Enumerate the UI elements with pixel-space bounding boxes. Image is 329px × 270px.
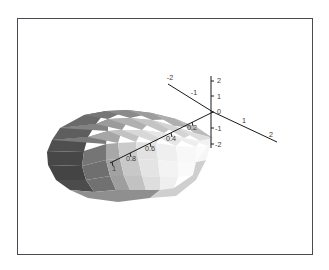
tick-label-right-1: 1	[242, 116, 246, 125]
tick-label-depth-minus1: -1	[191, 88, 197, 97]
surface-facet	[106, 143, 120, 160]
tick-label-vertical-minus2: -2	[215, 140, 221, 149]
surface-facet	[47, 151, 84, 166]
tick-label-depth-minus2: -2	[167, 73, 173, 82]
tick-label-vertical-1: 1	[217, 92, 221, 101]
surface-facet	[156, 143, 178, 162]
surface-facet	[158, 160, 178, 177]
tick-label-h-0-8: 0.8	[126, 154, 136, 163]
tick-label-h-1: 1	[112, 164, 116, 173]
surface-facet	[70, 190, 160, 202]
tick-label-vertical-2: 2	[217, 76, 221, 85]
tick-label-h-0-4: 0.4	[166, 134, 176, 143]
plot-canvas: -2 -1 2 1 0 -1 -2 1 2 0.2 0.4 0.6 0.8 1	[0, 0, 329, 270]
figure-root: -2 -1 2 1 0 -1 -2 1 2 0.2 0.4 0.6 0.8 1	[0, 0, 329, 270]
tick-label-h-0-2: 0.2	[187, 123, 197, 132]
surface-facet	[48, 165, 86, 180]
tick-label-h-0-6: 0.6	[145, 144, 155, 153]
surface-facet	[176, 146, 196, 162]
tick-label-right-2: 2	[269, 130, 273, 139]
tick-label-vertical-0: 0	[217, 107, 221, 116]
tick-label-vertical-minus1: -1	[215, 124, 221, 133]
